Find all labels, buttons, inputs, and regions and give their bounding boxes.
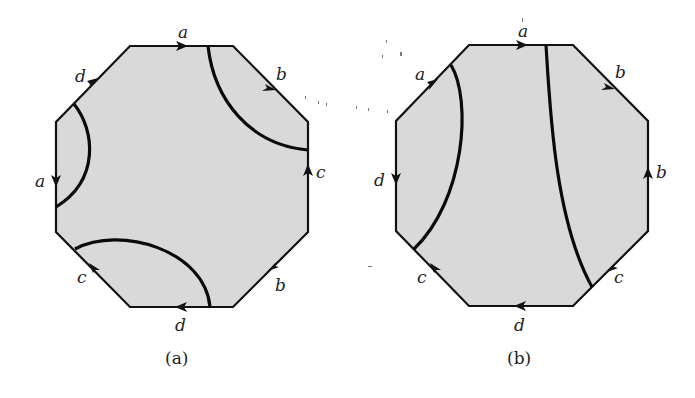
label-b-bottom: d bbox=[514, 315, 525, 335]
label-a-lower-right: b bbox=[275, 275, 286, 295]
caption-a: (a) bbox=[165, 348, 188, 368]
label-b-left: d bbox=[374, 170, 385, 190]
panel-b: a a d c d c b b (b) bbox=[374, 21, 667, 368]
label-b-upper-left: a bbox=[415, 64, 425, 84]
label-b-lower-left: c bbox=[417, 267, 427, 287]
panel-a: a d a c d b c b (a) bbox=[35, 22, 326, 368]
figure-canvas: a d a c d b c b (a) a a d c d c b b (b) bbox=[0, 0, 695, 398]
label-a-lower-left: c bbox=[77, 267, 87, 287]
label-a-left: a bbox=[35, 171, 45, 191]
label-b-upper-right: b bbox=[615, 62, 626, 82]
label-a-upper-left: d bbox=[75, 66, 86, 86]
label-a-bottom: d bbox=[175, 315, 186, 335]
caption-b: (b) bbox=[507, 348, 531, 368]
label-a-top: a bbox=[178, 22, 188, 42]
label-b-top: a bbox=[518, 21, 528, 41]
label-a-upper-right: b bbox=[276, 64, 287, 84]
label-a-right: c bbox=[316, 162, 326, 182]
label-b-lower-right: c bbox=[614, 267, 624, 287]
label-b-right: b bbox=[656, 162, 667, 182]
